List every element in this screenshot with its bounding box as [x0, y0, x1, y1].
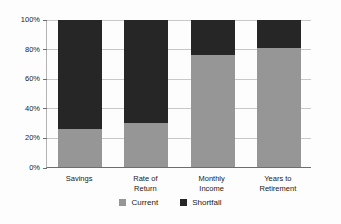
bar-stack — [58, 20, 102, 167]
bar-segment-shortfall — [257, 20, 301, 48]
y-tick-label: 80% — [0, 46, 40, 54]
y-tick-mark — [43, 79, 47, 80]
x-tick-label-line: Rate of — [112, 174, 178, 184]
bar-segment-shortfall — [58, 20, 102, 129]
x-tick-label-line: Return — [112, 184, 178, 194]
y-tick-mark — [43, 108, 47, 109]
bar-stack — [257, 20, 301, 167]
plot-area — [46, 20, 311, 168]
legend-item-current[interactable]: Current — [119, 198, 158, 207]
y-tick-mark — [43, 168, 47, 169]
legend-swatch-shortfall — [180, 199, 187, 206]
legend-label: Shortfall — [192, 198, 221, 207]
x-tick-label: Rate ofReturn — [112, 174, 178, 193]
y-tick-label: 60% — [0, 75, 40, 83]
x-tick-label-line: Income — [179, 184, 245, 194]
bar-segment-current — [58, 129, 102, 167]
legend-label: Current — [131, 198, 158, 207]
chart-legend: CurrentShortfall — [0, 198, 341, 207]
bar-segment-current — [191, 55, 235, 167]
x-tick-label: Years toRetirement — [245, 174, 311, 193]
x-tick-label-line: Years to — [245, 174, 311, 184]
x-tick-label-line: Monthly — [179, 174, 245, 184]
y-tick-label: 20% — [0, 134, 40, 142]
y-tick-mark — [43, 49, 47, 50]
bar-segment-current — [257, 48, 301, 167]
x-tick-label: MonthlyIncome — [179, 174, 245, 193]
y-tick-label: 100% — [0, 16, 40, 24]
bar-segment-shortfall — [124, 20, 168, 123]
x-tick-label-line: Savings — [46, 174, 112, 184]
legend-item-shortfall[interactable]: Shortfall — [180, 198, 221, 207]
y-tick-mark — [43, 20, 47, 21]
x-tick-label-line: Retirement — [245, 184, 311, 194]
bar-segment-shortfall — [191, 20, 235, 55]
bar-stack — [191, 20, 235, 167]
x-tick-label: Savings — [46, 174, 112, 184]
y-tick-label: 40% — [0, 105, 40, 113]
legend-swatch-current — [119, 199, 126, 206]
y-tick-label: 0% — [0, 164, 40, 172]
stacked-bar-chart: 0%20%40%60%80%100% SavingsRate ofReturnM… — [0, 0, 341, 224]
bar-segment-current — [124, 123, 168, 167]
y-tick-mark — [43, 138, 47, 139]
bar-stack — [124, 20, 168, 167]
